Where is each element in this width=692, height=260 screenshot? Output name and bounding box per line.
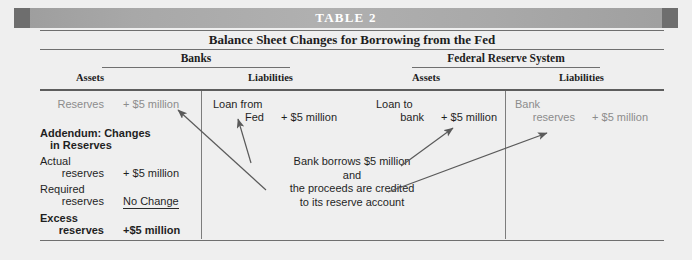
table-figure: TABLE 2 Balance Sheet Changes for Borrow… (0, 0, 692, 260)
table-number-label: TABLE 2 (14, 8, 678, 28)
banks-liabilities-value: + $5 million (267, 111, 376, 123)
divider-banks-fed (201, 91, 202, 239)
group-underline-fed (412, 67, 600, 68)
banks-liabilities-label1: Loan from (213, 98, 263, 110)
table-caption: Balance Sheet Changes for Borrowing from… (40, 32, 664, 48)
fed-liabilities-value: + $5 million (578, 111, 687, 123)
addendum-row-actual-value: + $5 million (107, 167, 218, 179)
addendum-row-required: reserves No Change (40, 195, 218, 209)
group-header-fed: Federal Reserve System (412, 52, 600, 64)
addendum-row-required-label1: Required (40, 183, 85, 195)
banks-liabilities-row: Fed + $5 million (213, 111, 376, 123)
fed-assets-row: bank + $5 million (376, 111, 536, 123)
annotation-line-4: to its reserve account (252, 196, 452, 210)
addendum-title-line1: Addendum: Changes (40, 127, 151, 139)
caption-top-rule (40, 30, 664, 31)
column-header-fed-liabilities: Liabilities (559, 72, 604, 83)
caption-bottom-rule (40, 49, 664, 50)
annotation-line-3: the proceeds are credited (252, 182, 452, 196)
banks-assets-reserves-row: Reserves + $5 million (40, 98, 218, 110)
addendum-row-excess-label1: Excess (40, 212, 78, 224)
column-header-fed-assets: Assets (412, 72, 440, 83)
addendum-row-excess-value: +$5 million (107, 224, 218, 236)
body-top-rule (40, 89, 664, 91)
annotation-line-1: Bank borrows $5 million (252, 155, 452, 169)
addendum-row-actual-label2: reserves (40, 167, 104, 179)
fed-assets-label2: bank (376, 111, 424, 123)
banks-liabilities-label2: Fed (213, 111, 264, 123)
annotation-line-2: and (252, 169, 452, 183)
fed-liabilities-label1: Bank (515, 98, 540, 110)
addendum-row-actual-label1: Actual (40, 155, 71, 167)
fed-liabilities-label2: reserves (515, 111, 575, 123)
addendum-title-line2: in Reserves (50, 139, 112, 151)
addendum-row-required-value: No Change (123, 195, 179, 209)
column-header-banks-liabilities: Liabilities (248, 72, 293, 83)
group-underline-banks (102, 67, 290, 68)
body-bottom-rule (40, 240, 664, 241)
fed-assets-label1: Loan to (376, 98, 413, 110)
addendum-row-required-label2: reserves (40, 195, 104, 207)
fed-liabilities-row: reserves + $5 million (515, 111, 687, 123)
banks-assets-reserves-label: Reserves (40, 98, 104, 110)
addendum-row-excess: reserves +$5 million (40, 224, 218, 236)
group-header-banks: Banks (102, 52, 290, 64)
banks-assets-reserves-value: + $5 million (107, 98, 218, 110)
addendum-row-excess-label2: reserves (40, 224, 104, 236)
annotation-block: Bank borrows $5 million and the proceeds… (252, 155, 452, 209)
arrow-to-banks-liabilities (238, 119, 251, 163)
addendum-row-actual: reserves + $5 million (40, 167, 218, 179)
table-title-bar: TABLE 2 (14, 8, 678, 28)
column-header-banks-assets: Assets (76, 72, 104, 83)
